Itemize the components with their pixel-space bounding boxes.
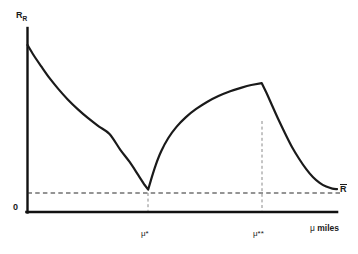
chart-figure: RR 0 μ miles μ* μ** R (0, 0, 358, 254)
tick-label-mu-star-star: μ** (253, 230, 264, 238)
x-axis-label-text: miles (315, 223, 339, 233)
y-axis-label: RR (16, 11, 27, 22)
y-axis-label-subscript: R (23, 15, 28, 22)
x-axis-label: μ miles (310, 224, 339, 233)
chart-plot-area (0, 0, 358, 254)
r-r-curve (28, 45, 338, 190)
tick-label-mu-star: μ* (141, 230, 149, 238)
r-bar-label: R (340, 184, 347, 194)
r-bar-label-text: R (340, 184, 347, 194)
origin-label: 0 (13, 203, 18, 212)
